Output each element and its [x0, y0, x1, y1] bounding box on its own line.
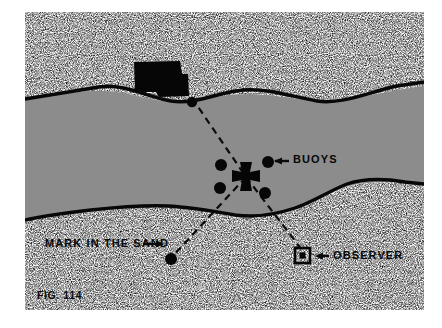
mark-in-the-sand-label: MARK IN THE SAND [45, 238, 169, 249]
mark-in-the-sand-stake [165, 253, 177, 265]
black-structure [134, 61, 189, 97]
buoy-marker [262, 156, 274, 168]
buoy-marker [214, 182, 226, 194]
figure-plate: BUOYS MARK IN THE SAND OBSERVER FIG. 114 [25, 12, 424, 310]
figure-page: BUOYS MARK IN THE SAND OBSERVER FIG. 114 [0, 0, 442, 328]
scene-illustration [25, 12, 424, 310]
figure-caption: FIG. 114 [37, 289, 82, 301]
observer-dot-icon [300, 253, 306, 259]
buoys-label: BUOYS [293, 154, 338, 165]
structure-range-stake [187, 97, 197, 107]
observer-label: OBSERVER [333, 250, 403, 261]
buoy-marker [215, 159, 227, 171]
buoy-marker [259, 187, 271, 199]
